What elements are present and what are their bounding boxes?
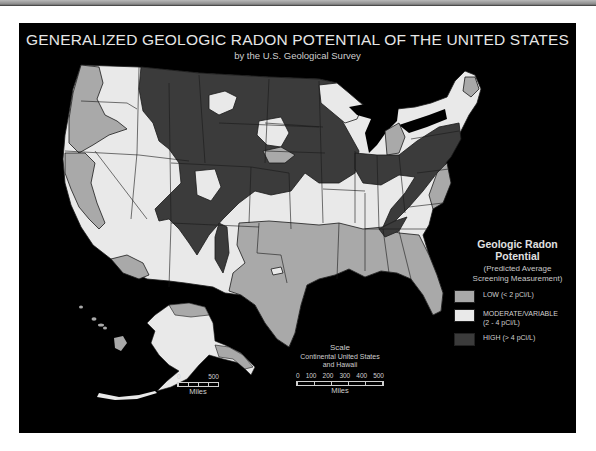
legend-label-moderate: MODERATE/VARIABLE xyxy=(483,309,558,318)
legend-title-line2: Potential xyxy=(450,250,585,262)
scale-unit: Miles xyxy=(296,386,384,395)
aleutian-chain xyxy=(97,391,157,400)
scale-tick: 200 xyxy=(323,372,334,380)
scale-tick: 0 xyxy=(177,373,181,381)
zone-low-alaska-south xyxy=(215,345,253,369)
scale-tick: 300 xyxy=(339,372,350,380)
hawaii-big-island xyxy=(114,336,127,351)
conus-map xyxy=(63,65,481,347)
scale-tick: 500 xyxy=(208,373,219,381)
radon-map-panel: GENERALIZED GEOLOGIC RADON POTENTIAL OF … xyxy=(19,23,576,433)
scale-tick: 500 xyxy=(373,372,384,380)
legend-item-high: HIGH (> 4 pCi/L) xyxy=(454,333,585,346)
legend-item-moderate: MODERATE/VARIABLE (2 - 4 pCi/L) xyxy=(454,309,585,327)
scale-alaska: 0 500 Miles xyxy=(177,373,219,396)
legend-title-line1: Geologic Radon xyxy=(450,238,585,250)
scale-alaska-unit: Miles xyxy=(177,387,219,396)
legend-subtitle-line2: Screening Measurement) xyxy=(450,274,585,284)
zone-low-alaska-north xyxy=(169,303,209,317)
hawaii-map xyxy=(79,306,127,352)
legend-item-low: LOW (< 2 pCi/L) xyxy=(454,290,585,303)
scale-title: Scale xyxy=(296,343,384,353)
scale-tick: 400 xyxy=(356,372,367,380)
scale-alaska-ticks: 0 500 xyxy=(177,373,219,381)
alaska-map xyxy=(97,303,255,400)
legend-label-moderate-range: (2 - 4 pCi/L) xyxy=(483,318,558,327)
scale-tick: 0 xyxy=(296,372,300,380)
legend-subtitle-line1: (Predicted Average xyxy=(450,264,585,274)
legend-swatch-high xyxy=(454,333,475,346)
legend: Geologic Radon Potential (Predicted Aver… xyxy=(450,238,585,346)
scale-ticks: 0 100 200 300 400 500 xyxy=(296,372,384,380)
scale-conus: Scale Continental United States and Hawa… xyxy=(296,343,384,395)
legend-swatch-low xyxy=(454,290,475,303)
legend-label-high: HIGH (> 4 pCi/L) xyxy=(483,333,535,342)
top-window-stripe xyxy=(0,0,596,6)
scale-subtitle-line2: and Hawaii xyxy=(296,361,384,369)
scale-tick: 100 xyxy=(306,372,317,380)
scale-subtitle-line1: Continental United States xyxy=(296,353,384,361)
legend-swatch-moderate xyxy=(454,309,475,322)
legend-label-low: LOW (< 2 pCi/L) xyxy=(483,290,534,299)
zone-low-south xyxy=(229,221,443,347)
